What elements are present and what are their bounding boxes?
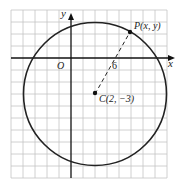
y-axis-label: y [60,7,66,19]
center-point [93,91,97,95]
grid [11,10,167,178]
origin-label: O [57,60,64,71]
coordinate-diagram: y x O P(x, y) C(2, −3) 6 [0,0,184,185]
point-p [128,30,132,34]
x-axis-label: x [167,57,173,69]
point-p-label: P(x, y) [133,20,161,32]
y-axis [68,13,74,178]
y-axis-arrow-icon [68,13,74,20]
x-axis [11,55,175,61]
radius-label: 6 [112,60,117,71]
center-point-label: C(2, −3) [99,93,135,105]
